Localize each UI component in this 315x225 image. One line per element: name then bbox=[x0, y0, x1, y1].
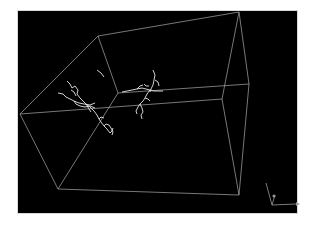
axis-y-icon bbox=[266, 183, 272, 205]
3d-scene[interactable] bbox=[0, 0, 315, 225]
neuron-right[interactable] bbox=[122, 70, 163, 119]
axis-x-icon bbox=[272, 204, 296, 205]
neuron-left[interactable] bbox=[58, 70, 113, 135]
axis-x-arrow-icon bbox=[296, 202, 300, 206]
axis-origin-icon bbox=[273, 195, 276, 198]
bounding-box bbox=[20, 12, 249, 195]
axis-gizmo[interactable] bbox=[266, 183, 300, 206]
